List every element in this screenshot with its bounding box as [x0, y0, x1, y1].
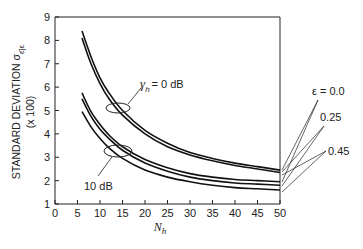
x-tick-label: 15: [116, 207, 128, 219]
y-tick-label: 8: [44, 34, 50, 46]
annotation-10db-leader: [98, 157, 112, 176]
y-tick-label: 5: [44, 105, 50, 117]
leader-eps0-10db: [282, 100, 318, 182]
y-axis-label-main: STANDARD DEVIATION σ: [10, 54, 22, 180]
x-tick-label: 40: [229, 207, 241, 219]
annotation-0db-label: γh= 0 dB: [140, 76, 184, 94]
y-axis-scale-label: (x 100): [24, 96, 36, 129]
x-tick-label: 0: [52, 207, 58, 219]
epsilon-legend-025: 0.25: [320, 111, 341, 123]
epsilon-legend-045: 0.45: [328, 145, 349, 157]
y-ticks: 123456789: [44, 11, 59, 210]
chart: 05101520253035404550 123456789 STANDARD …: [0, 0, 363, 249]
epsilon-legend-title: ε = 0.0: [312, 85, 345, 97]
x-tick-label: 50: [274, 207, 286, 219]
y-tick-label: 2: [44, 175, 50, 187]
leader-eps025-0db: [282, 126, 324, 172]
x-ticks: 05101520253035404550: [52, 200, 286, 219]
y-tick-label: 1: [44, 198, 50, 210]
x-tick-label: 30: [184, 207, 196, 219]
y-tick-label: 6: [44, 81, 50, 93]
leader-eps0-0db: [282, 100, 318, 170]
axes: [55, 17, 280, 204]
series-group: [82, 31, 280, 190]
x-axis-label: Nh: [153, 220, 167, 236]
y-tick-label: 7: [44, 58, 50, 70]
x-tick-label: 5: [74, 207, 80, 219]
y-tick-label: 4: [44, 128, 50, 140]
y-axis-label: STANDARD DEVIATION σε̂|ε (x 100): [10, 44, 36, 179]
x-tick-label: 45: [251, 207, 263, 219]
series-line-4: [82, 112, 280, 190]
x-tick-label: 20: [139, 207, 151, 219]
y-tick-label: 9: [44, 11, 50, 23]
y-axis-label-sub: ε̂|ε: [17, 44, 26, 54]
series-line-1: [82, 38, 280, 172]
x-tick-label: 35: [206, 207, 218, 219]
annotation-10db-label: 10 dB: [84, 180, 113, 192]
annotation-0db: γh= 0 dB: [106, 76, 184, 113]
x-tick-label: 25: [161, 207, 173, 219]
x-tick-label: 10: [94, 207, 106, 219]
y-tick-label: 3: [44, 151, 50, 163]
epsilon-legend: ε = 0.0 0.25 0.45: [282, 85, 349, 192]
x-axis-label-sub: h: [162, 226, 167, 236]
